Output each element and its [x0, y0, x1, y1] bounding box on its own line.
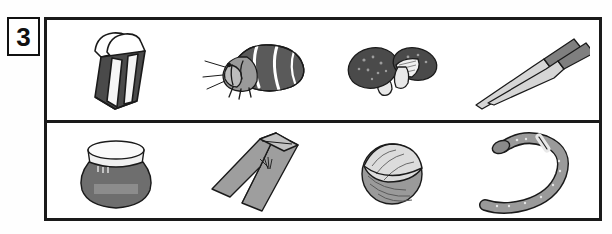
- eraser-icon: [81, 27, 151, 113]
- picture-cell-hermit-crab: [185, 20, 323, 120]
- shiitake-mushroom-icon: [342, 35, 442, 105]
- picture-cell-walnut: [323, 123, 461, 224]
- question-number: 3: [16, 24, 30, 50]
- picture-row-top: [47, 20, 599, 120]
- picture-frame: [44, 17, 602, 221]
- picture-cell-chopsticks: [461, 20, 599, 120]
- picture-cell-snake: [461, 123, 599, 224]
- picture-cell-jar: [47, 123, 185, 224]
- picture-cell-eraser: [47, 20, 185, 120]
- picture-row-bottom: [47, 120, 599, 224]
- hermit-crab-icon: [199, 35, 309, 105]
- walnut-icon: [354, 138, 430, 210]
- picture-cell-trousers: [185, 123, 323, 224]
- illustration-panel: 3: [0, 0, 612, 234]
- picture-cell-mushrooms: [323, 20, 461, 120]
- snake-icon: [473, 127, 587, 221]
- chopsticks-icon: [470, 29, 590, 111]
- question-number-badge: 3: [7, 17, 40, 56]
- trousers-icon: [198, 127, 310, 221]
- jar-icon: [74, 136, 158, 212]
